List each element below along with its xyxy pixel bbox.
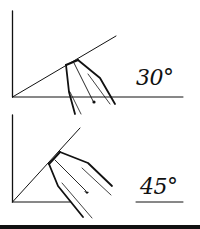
panel-30-degrees — [13, 11, 184, 114]
pen-nib-top-icon — [66, 60, 115, 114]
bottom-divider-bar — [0, 225, 200, 229]
angle-line-30 — [13, 36, 117, 97]
pen-nib-bottom-icon — [49, 152, 112, 218]
angle-label-30: 30° — [136, 67, 174, 89]
pen-angle-diagram: 30° 45° — [0, 0, 200, 229]
angle-label-45: 45° — [140, 176, 178, 198]
panel-45-degrees — [13, 115, 184, 218]
angle-line-45 — [13, 128, 81, 202]
